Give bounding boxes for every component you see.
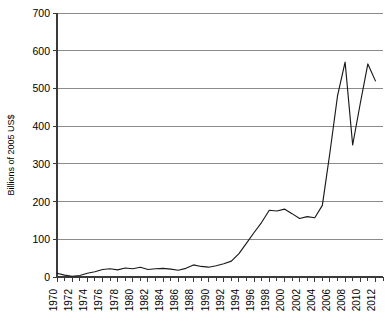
x-tick-label: 1994: [230, 289, 241, 312]
y-tick-label: 300: [32, 158, 50, 170]
y-tick-label: 500: [32, 82, 50, 94]
y-tick-marks: [53, 13, 57, 277]
x-tick-label: 1986: [169, 289, 180, 312]
y-tick-label: 100: [32, 233, 50, 245]
x-tick-labels: 1970197219741976197819801982198419861988…: [48, 289, 377, 312]
y-tick-labels: 0100200300400500600700: [32, 7, 50, 283]
x-tick-label: 1970: [48, 289, 59, 312]
x-tick-label: 1984: [154, 289, 165, 312]
x-tick-label: 1990: [200, 289, 211, 312]
y-tick-label: 400: [32, 120, 50, 132]
x-tick-label: 1972: [63, 289, 74, 312]
x-tick-label: 1974: [78, 289, 89, 312]
x-tick-label: 1982: [139, 289, 150, 312]
chart-container: 0100200300400500600700 19701972197419761…: [0, 0, 390, 336]
x-tick-label: 1992: [215, 289, 226, 312]
y-tick-label: 200: [32, 196, 50, 208]
x-tick-label: 1988: [184, 289, 195, 312]
gridlines: [57, 13, 383, 239]
x-tick-label: 2000: [275, 289, 286, 312]
line-chart: 0100200300400500600700 19701972197419761…: [0, 0, 390, 336]
x-tick-label: 2012: [366, 289, 377, 312]
data-series-line: [57, 62, 375, 276]
y-axis-title: Billions of 2005 US$: [6, 114, 16, 195]
x-tick-label: 2004: [306, 289, 317, 312]
y-tick-label: 700: [32, 7, 50, 19]
y-tick-label: 0: [44, 271, 50, 283]
x-tick-label: 2008: [336, 289, 347, 312]
x-tick-label: 1976: [93, 289, 104, 312]
x-tick-marks: [57, 277, 383, 282]
x-tick-label: 2002: [291, 289, 302, 312]
x-tick-label: 1980: [124, 289, 135, 312]
x-tick-label: 1996: [245, 289, 256, 312]
x-tick-label: 2010: [351, 289, 362, 312]
y-tick-label: 600: [32, 45, 50, 57]
x-tick-label: 1998: [260, 289, 271, 312]
x-tick-label: 2006: [321, 289, 332, 312]
x-tick-label: 1978: [109, 289, 120, 312]
